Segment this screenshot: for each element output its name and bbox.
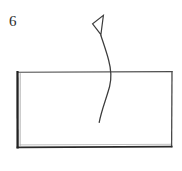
figure-canvas: 6 [0,0,182,171]
figure-drawing [0,0,182,171]
rectangle-outline [18,72,173,148]
curved-arrow-head [93,15,104,34]
rectangle-bottom-edge [18,147,172,148]
curved-arrow-shaft [99,35,111,122]
rectangle-bottom-edge-overdraw [20,144,170,145]
curved-arrow [93,15,111,122]
rectangle-top-edge [18,72,173,73]
